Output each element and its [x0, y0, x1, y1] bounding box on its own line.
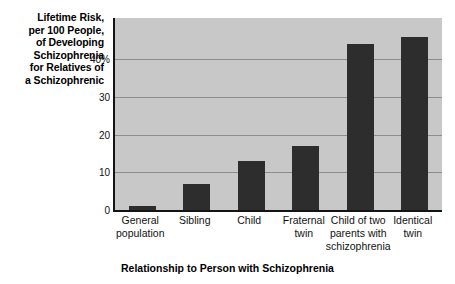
y-axis-title-line: Lifetime Risk, — [0, 11, 104, 24]
plot-area: 010203040% — [113, 18, 442, 212]
y-axis-title-line: per 100 People, — [0, 24, 104, 37]
bar — [401, 37, 428, 210]
bar — [129, 206, 156, 210]
y-axis-title-line: of Developing — [0, 36, 104, 49]
bar-series — [115, 18, 442, 210]
y-tick-label: 30 — [70, 92, 115, 103]
y-axis-title: Lifetime Risk, per 100 People, of Develo… — [0, 11, 104, 87]
bar — [347, 44, 374, 210]
y-tick-label: 40% — [70, 54, 115, 65]
x-category-label: Identicaltwin — [380, 214, 447, 240]
x-category-label-line: schizophrenia — [325, 240, 392, 253]
y-axis-title-line: a Schizophrenic — [0, 74, 104, 87]
x-axis-category-labels: GeneralpopulationSiblingChildFraternaltw… — [113, 214, 440, 260]
bar — [183, 184, 210, 210]
x-category-label-line: population — [107, 227, 174, 240]
bar — [292, 146, 319, 210]
x-category-label-line: twin — [380, 227, 447, 240]
bar-chart-figure: Lifetime Risk, per 100 People, of Develo… — [0, 0, 455, 284]
y-tick-label: 20 — [70, 129, 115, 140]
bar — [238, 161, 265, 210]
x-category-label-line: Identical — [380, 214, 447, 227]
y-tick-label: 10 — [70, 167, 115, 178]
x-axis-title: Relationship to Person with Schizophreni… — [0, 262, 455, 274]
